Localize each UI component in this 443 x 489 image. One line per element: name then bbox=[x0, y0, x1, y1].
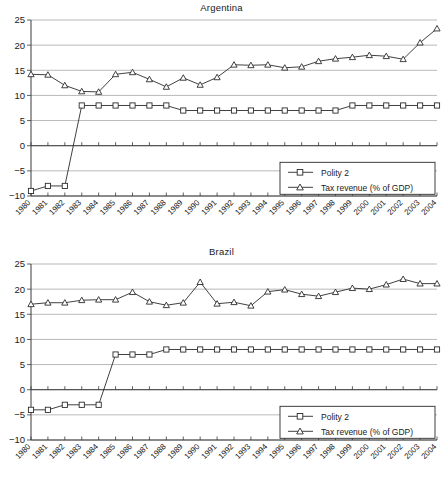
marker-square bbox=[282, 108, 287, 113]
marker-square bbox=[28, 188, 33, 193]
ytick-label--5: −5 bbox=[14, 165, 25, 176]
marker-square bbox=[214, 347, 219, 352]
marker-square bbox=[401, 347, 406, 352]
chart-panel-argentina: Argentina −10−50510152025198019811982198… bbox=[0, 0, 443, 244]
marker-square bbox=[79, 402, 84, 407]
ytick-label-15: 15 bbox=[14, 309, 25, 320]
xtick-label-1988: 1988 bbox=[149, 198, 168, 217]
marker-triangle bbox=[366, 52, 372, 58]
xtick-label-2002: 2002 bbox=[386, 442, 405, 461]
marker-square bbox=[333, 347, 338, 352]
xtick-label-2002: 2002 bbox=[386, 198, 405, 217]
xtick-label-1997: 1997 bbox=[301, 198, 320, 217]
ytick-label-5: 5 bbox=[20, 115, 25, 126]
marker-triangle bbox=[197, 82, 203, 88]
ytick-label-5: 5 bbox=[20, 359, 25, 370]
marker-square bbox=[181, 347, 186, 352]
marker-square bbox=[316, 347, 321, 352]
xtick-label-1994: 1994 bbox=[250, 198, 269, 217]
marker-square bbox=[282, 347, 287, 352]
marker-triangle bbox=[434, 25, 440, 31]
xtick-label-1996: 1996 bbox=[284, 442, 303, 461]
marker-square bbox=[417, 347, 422, 352]
legend: Polity 2Tax revenue (% of GDP) bbox=[280, 406, 435, 438]
ytick-label-10: 10 bbox=[14, 334, 25, 345]
marker-square bbox=[130, 352, 135, 357]
xtick-label-2003: 2003 bbox=[403, 198, 422, 217]
marker-square bbox=[350, 347, 355, 352]
xtick-label-1995: 1995 bbox=[267, 198, 286, 217]
marker-square bbox=[248, 108, 253, 113]
marker-square bbox=[417, 103, 422, 108]
marker-square bbox=[299, 347, 304, 352]
marker-triangle bbox=[146, 76, 152, 82]
series-polity2 bbox=[28, 347, 439, 413]
legend-marker-square bbox=[297, 170, 303, 176]
marker-triangle bbox=[129, 289, 135, 295]
marker-square bbox=[28, 407, 33, 412]
marker-square bbox=[181, 108, 186, 113]
xtick-label-1986: 1986 bbox=[115, 198, 134, 217]
xtick-label-1990: 1990 bbox=[183, 198, 202, 217]
xtick-label-1996: 1996 bbox=[284, 198, 303, 217]
marker-square bbox=[198, 108, 203, 113]
xtick-label-1993: 1993 bbox=[233, 198, 252, 217]
marker-triangle bbox=[163, 84, 169, 90]
series-tax-revenue bbox=[28, 276, 440, 308]
marker-square bbox=[45, 407, 50, 412]
ytick-label-10: 10 bbox=[14, 90, 25, 101]
marker-square bbox=[401, 103, 406, 108]
xtick-label-1992: 1992 bbox=[216, 198, 235, 217]
series-line-0 bbox=[31, 349, 437, 409]
xtick-label-2001: 2001 bbox=[369, 198, 388, 217]
xtick-label-1997: 1997 bbox=[301, 442, 320, 461]
page-title-argentina: Argentina bbox=[0, 2, 443, 13]
marker-triangle bbox=[180, 75, 186, 81]
marker-square bbox=[164, 347, 169, 352]
marker-square bbox=[265, 347, 270, 352]
xtick-label-1992: 1992 bbox=[216, 442, 235, 461]
marker-square bbox=[147, 103, 152, 108]
xtick-label-1986: 1986 bbox=[115, 442, 134, 461]
xtick-label-1984: 1984 bbox=[81, 198, 100, 217]
marker-square bbox=[96, 402, 101, 407]
xtick-label-1989: 1989 bbox=[166, 198, 185, 217]
marker-triangle bbox=[62, 82, 68, 88]
xtick-label-2000: 2000 bbox=[352, 198, 371, 217]
xtick-label-1998: 1998 bbox=[318, 198, 337, 217]
xtick-label-1993: 1993 bbox=[233, 442, 252, 461]
marker-square bbox=[350, 103, 355, 108]
marker-square bbox=[367, 103, 372, 108]
xtick-label-1982: 1982 bbox=[47, 198, 66, 217]
xtick-label-2003: 2003 bbox=[403, 442, 422, 461]
ytick-label-25: 25 bbox=[14, 258, 25, 269]
marker-square bbox=[113, 352, 118, 357]
xtick-label-1982: 1982 bbox=[47, 442, 66, 461]
marker-square bbox=[384, 347, 389, 352]
xtick-label-2004: 2004 bbox=[419, 198, 438, 217]
xtick-label-2001: 2001 bbox=[369, 442, 388, 461]
xtick-label-1991: 1991 bbox=[200, 442, 219, 461]
series-tax-revenue bbox=[28, 25, 440, 94]
xtick-label-1998: 1998 bbox=[318, 442, 337, 461]
marker-square bbox=[130, 103, 135, 108]
marker-triangle bbox=[197, 279, 203, 285]
marker-square bbox=[164, 103, 169, 108]
legend: Polity 2Tax revenue (% of GDP) bbox=[280, 162, 435, 194]
xtick-label-2004: 2004 bbox=[419, 442, 438, 461]
legend-label-0: Polity 2 bbox=[321, 168, 349, 178]
xtick-label-1990: 1990 bbox=[183, 442, 202, 461]
xtick-label-1991: 1991 bbox=[200, 198, 219, 217]
xtick-label-1988: 1988 bbox=[149, 442, 168, 461]
ytick-label--10: −10 bbox=[9, 190, 25, 201]
marker-square bbox=[198, 347, 203, 352]
ytick-label--10: −10 bbox=[9, 434, 25, 445]
marker-square bbox=[147, 352, 152, 357]
xtick-label-1995: 1995 bbox=[267, 442, 286, 461]
marker-square bbox=[62, 402, 67, 407]
marker-square bbox=[367, 347, 372, 352]
xtick-label-1984: 1984 bbox=[81, 442, 100, 461]
xtick-label-1989: 1989 bbox=[166, 442, 185, 461]
xtick-label-1985: 1985 bbox=[98, 442, 117, 461]
marker-triangle bbox=[214, 74, 220, 80]
